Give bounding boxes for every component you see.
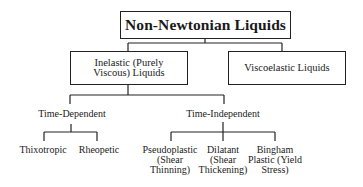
bingham-plastic-label: Bingham Plastic (Yield Stress)	[248, 145, 302, 175]
viscoelastic-liquids-label: Viscoelastic Liquids	[244, 63, 329, 74]
thixotropic-label: Thixotropic	[19, 145, 66, 155]
inelastic-liquids-box: Inelastic (Purely Viscous) Liquids	[70, 51, 188, 85]
pseudoplastic-label: Pseudoplastic (Shear Thinning)	[143, 145, 198, 175]
rheopetic-label: Rheopetic	[79, 145, 120, 155]
dilatant-label: Dilatant (Shear Thickening)	[199, 145, 248, 175]
time-dependent-label: Time-Dependent	[38, 109, 105, 119]
non-newtonian-classification-diagram: Non-Newtonian Liquids Inelastic (Purely …	[0, 0, 363, 187]
root-node-label: Non-Newtonian Liquids	[125, 16, 286, 34]
inelastic-liquids-label: Inelastic (Purely Viscous) Liquids	[93, 58, 164, 79]
pseudoplastic-line3: Thinning)	[143, 165, 198, 175]
dilatant-line3: Thickening)	[199, 165, 248, 175]
time-independent-label: Time-Independent	[186, 109, 260, 119]
root-node-box: Non-Newtonian Liquids	[120, 11, 291, 39]
viscoelastic-liquids-box: Viscoelastic Liquids	[228, 51, 346, 85]
bingham-line3: Stress)	[248, 165, 302, 175]
inelastic-label-line2: Viscous) Liquids	[93, 68, 164, 79]
